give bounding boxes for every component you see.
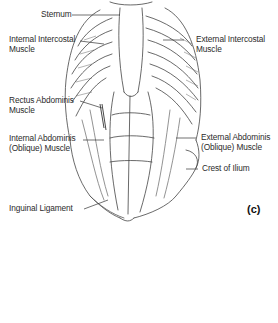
label-line2: (Oblique) Muscle — [9, 144, 75, 154]
label-inguinal-ligament: Inguinal Ligament — [9, 204, 73, 214]
label-text: Crest of Ilium — [202, 163, 249, 173]
label-text: Inguinal Ligament — [9, 203, 73, 213]
anatomy-diagram: Sternum Internal Intercostal Muscle Exte… — [0, 0, 278, 323]
label-external-abdominis: External Abdominis (Oblique) Muscle — [201, 133, 270, 152]
label-line2: Muscle — [196, 45, 265, 55]
label-sternum: Sternum — [41, 10, 72, 20]
label-external-intercostal: External Intercostal Muscle — [196, 35, 265, 54]
label-internal-abdominis: Internal Abdominis (Oblique) Muscle — [9, 134, 75, 153]
label-line2: Muscle — [9, 106, 74, 116]
label-text: Sternum — [41, 9, 72, 19]
label-line2: Muscle — [9, 45, 75, 55]
label-rectus-abdominis: Rectus Abdominis Muscle — [9, 96, 74, 115]
panel-letter: (c) — [247, 203, 260, 215]
label-line2: (Oblique) Muscle — [201, 143, 270, 153]
label-internal-intercostal: Internal Intercostal Muscle — [9, 35, 75, 54]
label-crest-of-ilium: Crest of Ilium — [202, 164, 249, 174]
